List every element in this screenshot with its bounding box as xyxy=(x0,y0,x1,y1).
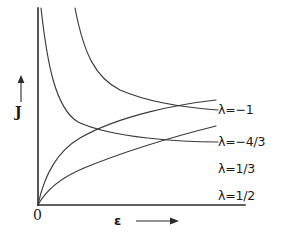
curve-lambda-neg-4-3 xyxy=(41,8,218,142)
plot-canvas xyxy=(0,0,289,239)
origin-label: 0 xyxy=(33,208,42,222)
x-axis-arrow-icon xyxy=(136,218,179,225)
curve-label-lambda-neg-4-3: λ=−4/3 xyxy=(218,136,265,149)
curve-lambda-neg-1 xyxy=(75,8,218,110)
y-axis-label: J xyxy=(15,105,22,119)
curve-label-lambda-1-3: λ=1/3 xyxy=(218,163,255,176)
y-axis-arrow-icon xyxy=(18,75,25,102)
x-axis-label: ε xyxy=(114,214,121,227)
curve-label-lambda-neg-1: λ=−1 xyxy=(218,104,254,117)
figure-container: J 0 ε λ=−1 λ=−4/3 λ=1/3 λ=1/2 xyxy=(0,0,289,239)
curve-label-lambda-1-2: λ=1/2 xyxy=(218,190,255,203)
curve-lambda-1-2 xyxy=(38,126,216,205)
